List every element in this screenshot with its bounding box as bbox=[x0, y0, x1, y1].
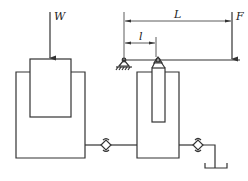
pivot-distance-label: l bbox=[139, 30, 143, 43]
lever-length-label: L bbox=[173, 8, 181, 21]
large-cylinder bbox=[16, 59, 85, 158]
load-label: W bbox=[54, 10, 67, 23]
check-valve-1-icon bbox=[101, 139, 111, 152]
hydraulic-diagram: W F L l bbox=[0, 0, 248, 181]
diagram-canvas: W F L l bbox=[0, 0, 248, 181]
small-cylinder bbox=[137, 62, 179, 158]
reservoir-tank-icon bbox=[205, 163, 227, 168]
check-valve-2-icon bbox=[193, 139, 203, 152]
force-label: F bbox=[235, 10, 244, 23]
